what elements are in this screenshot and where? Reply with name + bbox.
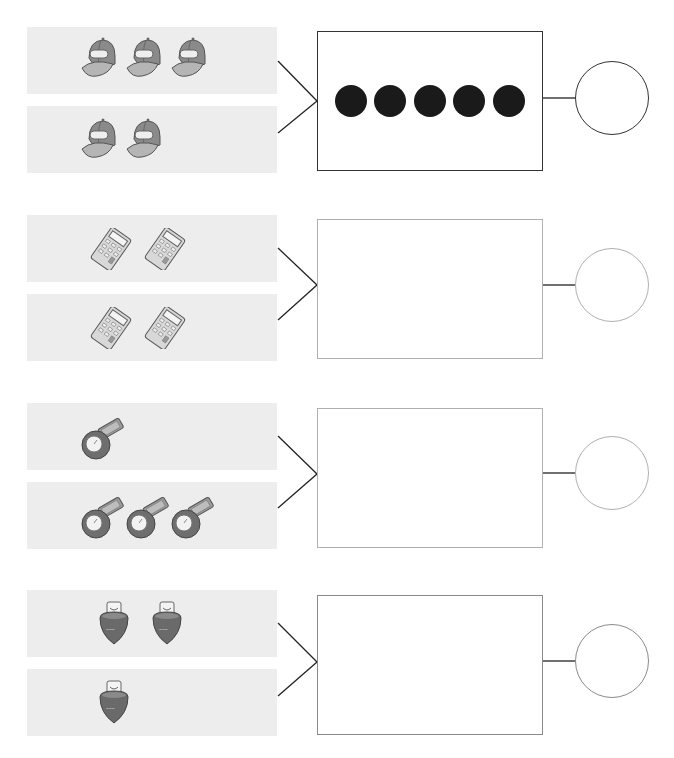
cap-items bbox=[27, 106, 277, 173]
cap-icon bbox=[124, 36, 164, 80]
stopwatch-icon bbox=[169, 494, 217, 540]
stopwatch-icon bbox=[79, 494, 127, 540]
acorn-bottle-icon: ~~~ bbox=[150, 600, 184, 646]
dot-icon bbox=[493, 85, 525, 117]
top-panel-calculators bbox=[27, 215, 277, 282]
answer-circle-stopwatches[interactable] bbox=[575, 436, 649, 510]
total-box-calculators[interactable] bbox=[317, 219, 543, 359]
bottom-panel-acorn-bottles: ~~~ bbox=[27, 669, 277, 736]
answer-circle-caps[interactable] bbox=[575, 61, 649, 135]
stopwatch-items bbox=[27, 403, 277, 470]
dot-icon bbox=[453, 85, 485, 117]
dot-icon bbox=[335, 85, 367, 117]
cap-icon bbox=[79, 36, 119, 80]
dot-icon bbox=[414, 85, 446, 117]
stopwatch-icon bbox=[124, 494, 172, 540]
total-box-acorn-bottles[interactable] bbox=[317, 595, 543, 735]
calculator-icon bbox=[89, 228, 133, 270]
svg-text:~~~: ~~~ bbox=[106, 626, 115, 632]
calculator-icon bbox=[143, 307, 187, 349]
cap-items bbox=[27, 27, 277, 94]
total-box-stopwatches[interactable] bbox=[317, 408, 543, 548]
stopwatch-icon bbox=[79, 415, 127, 461]
svg-text:~~~: ~~~ bbox=[106, 705, 115, 711]
calculator-icon bbox=[143, 228, 187, 270]
top-panel-stopwatches bbox=[27, 403, 277, 470]
calculator-items bbox=[27, 294, 277, 361]
stopwatch-items bbox=[27, 482, 277, 549]
answer-circle-calculators[interactable] bbox=[575, 248, 649, 322]
cap-icon bbox=[124, 117, 164, 161]
acorn-bottle-items: ~~~ ~~~ bbox=[27, 590, 277, 657]
top-panel-acorn-bottles: ~~~ ~~~ bbox=[27, 590, 277, 657]
acorn-bottle-items: ~~~ bbox=[27, 669, 277, 736]
bottom-panel-caps bbox=[27, 106, 277, 173]
dot-icon bbox=[374, 85, 406, 117]
bottom-panel-stopwatches bbox=[27, 482, 277, 549]
svg-text:~~~: ~~~ bbox=[159, 626, 168, 632]
total-box-caps[interactable] bbox=[317, 31, 543, 171]
acorn-bottle-icon: ~~~ bbox=[97, 679, 131, 725]
calculator-icon bbox=[89, 307, 133, 349]
acorn-bottle-icon: ~~~ bbox=[97, 600, 131, 646]
bottom-panel-calculators bbox=[27, 294, 277, 361]
calculator-items bbox=[27, 215, 277, 282]
top-panel-caps bbox=[27, 27, 277, 94]
cap-icon bbox=[169, 36, 209, 80]
answer-circle-acorn-bottles[interactable] bbox=[575, 624, 649, 698]
cap-icon bbox=[79, 117, 119, 161]
